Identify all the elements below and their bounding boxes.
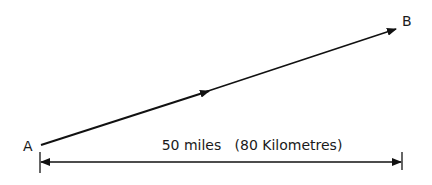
distance-label: 50 miles (80 Kilometres) (162, 137, 343, 153)
vector-a-to-b (41, 29, 396, 145)
dimension-line (40, 152, 402, 173)
point-a-label: A (23, 138, 33, 154)
distance-diagram: A B 50 miles (80 Kilometres) (0, 0, 432, 185)
vector-second-half (205, 29, 396, 92)
point-b-label: B (402, 13, 412, 29)
